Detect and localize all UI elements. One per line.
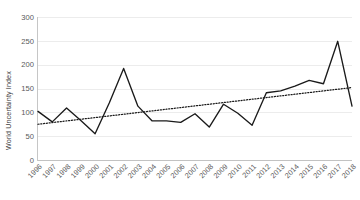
- x-tick-label: 1996: [26, 162, 44, 180]
- x-tick-label: 2014: [283, 162, 301, 180]
- x-tick-label: 2003: [126, 162, 144, 180]
- x-tick-label: 2010: [226, 162, 244, 180]
- trend-line-series: [38, 88, 352, 125]
- x-axis-tick-labels: 1996199719981999200020012002200320042005…: [26, 162, 358, 180]
- y-tick-label: 50: [26, 132, 34, 141]
- x-tick-label: 2016: [311, 162, 329, 180]
- world-uncertainty-index-series: [38, 41, 352, 133]
- x-tick-label: 2002: [112, 162, 130, 180]
- x-tick-label: 1998: [54, 162, 72, 180]
- x-tick-label: 2001: [97, 162, 115, 180]
- y-axis-title: World Uncertainty Index: [4, 71, 13, 150]
- world-uncertainty-index-chart: 050100150200250300 199619971998199920002…: [0, 0, 360, 200]
- x-tick-label: 2008: [197, 162, 215, 180]
- x-tick-label: 2004: [140, 162, 158, 180]
- x-tick-label: 2011: [240, 162, 258, 180]
- y-tick-label: 100: [21, 108, 34, 117]
- gridlines: [38, 18, 352, 161]
- y-tick-label: 300: [21, 13, 34, 22]
- x-tick-label: 2018: [340, 162, 358, 180]
- y-tick-label: 250: [21, 37, 34, 46]
- x-tick-label: 2013: [269, 162, 287, 180]
- x-tick-label: 2005: [154, 162, 172, 180]
- x-tick-label: 2012: [254, 162, 272, 180]
- x-tick-label: 2009: [211, 162, 229, 180]
- x-tick-label: 2017: [326, 162, 344, 180]
- x-tick-label: 2007: [183, 162, 201, 180]
- y-tick-label: 0: [30, 156, 34, 165]
- x-tick-label: 2000: [83, 162, 101, 180]
- y-tick-label: 200: [21, 60, 34, 69]
- x-tick-label: 1997: [40, 162, 58, 180]
- x-tick-label: 2006: [169, 162, 187, 180]
- y-tick-label: 150: [21, 84, 34, 93]
- x-tick-label: 1999: [69, 162, 87, 180]
- x-tick-label: 2015: [297, 162, 315, 180]
- y-axis-tick-labels: 050100150200250300: [21, 13, 34, 165]
- chart-canvas: 050100150200250300 199619971998199920002…: [0, 0, 360, 200]
